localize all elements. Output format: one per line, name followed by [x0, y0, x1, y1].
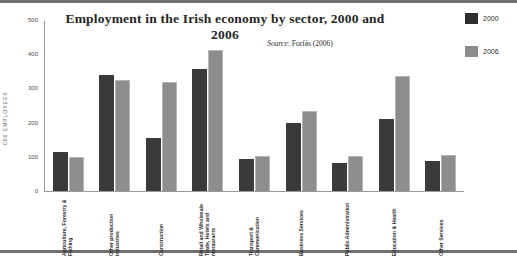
- bar-group: [239, 21, 270, 191]
- y-tick-300: 300: [14, 85, 38, 91]
- legend-label-2006: 2006: [483, 48, 499, 55]
- bar-2006: [395, 76, 410, 191]
- bar-2000: [332, 163, 347, 191]
- x-axis-categories: Agriculture, Forestry & FishingOther pro…: [44, 194, 464, 256]
- legend-swatch-2000: [465, 13, 478, 24]
- bar-group: [286, 21, 317, 191]
- bar-group: [192, 21, 223, 191]
- legend-swatch-2006: [465, 46, 478, 57]
- category-label: Construction: [144, 194, 178, 256]
- category-label: Education & Health: [377, 194, 411, 256]
- bar-groups: [45, 21, 464, 191]
- plot-area: [44, 21, 464, 192]
- y-tick-200: 200: [14, 120, 38, 126]
- category-label-text: Other production industries: [108, 194, 120, 256]
- category-label: Transport & Communication: [237, 194, 271, 256]
- bar-group: [332, 21, 363, 191]
- legend-label-2000: 2000: [483, 15, 499, 22]
- y-tick-0: 0: [14, 188, 38, 194]
- bar-2000: [379, 119, 394, 191]
- category-label-text: Retail and Wholesale Trade, Hotels and r…: [198, 194, 216, 256]
- y-tick-500: 500: [14, 17, 38, 23]
- bar-group: [146, 21, 177, 191]
- bar-2006: [255, 156, 270, 191]
- bar-group: [53, 21, 84, 191]
- y-tick-400: 400: [14, 51, 38, 57]
- bar-2000: [425, 161, 440, 191]
- legend-item-2000: 2000: [465, 13, 511, 24]
- category-label: Retail and Wholesale Trade, Hotels and r…: [190, 194, 224, 256]
- category-label-text: Construction: [158, 194, 164, 256]
- chart-legend: 20002006: [465, 13, 511, 79]
- bar-2006: [302, 111, 317, 191]
- bar-2006: [69, 157, 84, 191]
- category-label: Public Administration: [330, 194, 364, 256]
- category-label: Business Services: [284, 194, 318, 256]
- bar-2006: [441, 155, 456, 191]
- category-label: Other production industries: [97, 194, 131, 256]
- bar-2000: [99, 75, 114, 191]
- category-label-text: Public Administration: [344, 194, 350, 256]
- category-label: Agriculture, Forestry & Fishing: [50, 194, 84, 256]
- bar-2006: [208, 50, 223, 191]
- bar-2006: [115, 80, 130, 191]
- bar-group: [425, 21, 456, 191]
- bar-group: [379, 21, 410, 191]
- bar-group: [99, 21, 130, 191]
- bar-2006: [348, 156, 363, 191]
- bar-2000: [192, 69, 207, 191]
- bar-2006: [162, 82, 177, 191]
- category-label-text: Education & Health: [391, 194, 397, 256]
- category-label-text: Other Services: [438, 194, 444, 256]
- legend-item-2006: 2006: [465, 46, 511, 57]
- bar-2000: [146, 138, 161, 191]
- bar-2000: [286, 123, 301, 191]
- category-label-text: Transport & Communication: [248, 194, 260, 256]
- category-label-text: Business Services: [298, 194, 304, 256]
- category-label-text: Agriculture, Forestry & Fishing: [61, 194, 73, 256]
- category-label: Other Services: [424, 194, 458, 256]
- bar-2000: [53, 152, 68, 191]
- bar-2000: [239, 159, 254, 191]
- y-tick-100: 100: [14, 154, 38, 160]
